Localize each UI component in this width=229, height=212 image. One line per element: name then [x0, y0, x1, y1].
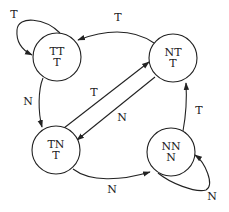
edge-label-nn-self: N: [207, 190, 217, 203]
state-nt: NT T: [149, 34, 197, 82]
edge-label-nt-tt: T: [114, 11, 122, 24]
edge-label-tt-tn: N: [23, 95, 33, 108]
edge-nt-to-tt: [78, 32, 154, 43]
edge-label-tn-nn: N: [107, 183, 117, 196]
edge-label-nn-nt: T: [195, 104, 203, 117]
edge-nn-to-nt: [183, 83, 186, 131]
state-tn: TN T: [32, 126, 80, 174]
edge-tn-to-nt: [64, 62, 149, 128]
state-nn: NN N: [147, 128, 195, 176]
edge-label-nt-tn: N: [117, 111, 127, 124]
state-diagram: T T N T N N T N TT T NT T TN T NN N: [0, 0, 229, 212]
edge-label-tn-nt: T: [90, 86, 98, 99]
state-tt-line2: T: [53, 56, 61, 69]
state-nt-line2: T: [169, 57, 177, 70]
state-nn-line2: N: [166, 151, 176, 164]
edge-label-tt-self: T: [10, 8, 18, 21]
state-tn-line2: T: [52, 149, 60, 162]
edge-tn-to-nn: [73, 169, 150, 179]
edge-tt-to-tn: [39, 78, 43, 127]
state-tt: TT T: [33, 33, 81, 81]
